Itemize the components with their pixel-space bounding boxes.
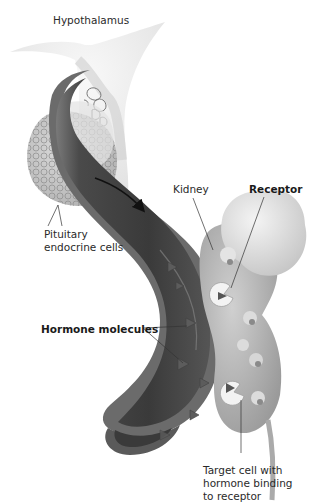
hormone-diagram: Hypothalamus Pituitary endocrine cells K…	[0, 0, 315, 504]
label-receptor: Receptor	[249, 183, 302, 195]
label-pituitary-line2: endocrine cells	[44, 241, 123, 253]
label-hormone-molecules: Hormone molecules	[41, 323, 158, 335]
label-kidney: Kidney	[173, 183, 209, 195]
label-target-line2: hormone binding	[203, 477, 292, 489]
label-target-line3: to receptor	[203, 490, 261, 502]
label-hypothalamus: Hypothalamus	[53, 14, 129, 26]
label-pituitary-line1: Pituitary	[44, 228, 88, 240]
label-target-line1: Target cell with	[203, 464, 283, 476]
